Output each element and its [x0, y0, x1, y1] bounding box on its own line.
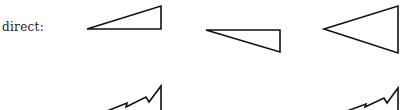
- zigzag-shape-1: [107, 86, 161, 110]
- triangle-shape-1: [87, 6, 161, 29]
- zigzag-shape-2: [347, 88, 398, 110]
- triangle-shape-2: [206, 30, 280, 52]
- triangle-shape-3: [324, 6, 398, 53]
- figure-canvas: [0, 0, 404, 110]
